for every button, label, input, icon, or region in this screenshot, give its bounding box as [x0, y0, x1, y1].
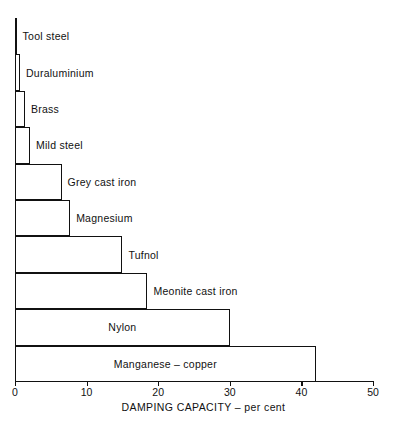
bar-rect: [15, 273, 147, 309]
y-axis-line: [15, 18, 16, 382]
bar-row: Tool steel: [0, 18, 393, 54]
x-axis-line: [15, 381, 373, 382]
bar-rect: [15, 236, 122, 272]
bar-rect: [15, 200, 70, 236]
bar-label: Nylon: [108, 322, 136, 333]
x-tick-label: 20: [152, 387, 164, 398]
bar-label: Grey cast iron: [68, 177, 137, 188]
bar-row: Brass: [0, 91, 393, 127]
x-tick-label: 50: [367, 387, 379, 398]
x-tick-label: 30: [224, 387, 236, 398]
bar-row: Meonite cast iron: [0, 273, 393, 309]
bar-row: Magnesium: [0, 200, 393, 236]
bar-rect: [15, 127, 30, 163]
bar-row: Duraluminium: [0, 54, 393, 90]
bar-label: Magnesium: [76, 213, 133, 224]
x-tick-label: 40: [296, 387, 308, 398]
x-tick-label: 0: [12, 387, 18, 398]
bar-row: Manganese – copper: [0, 346, 393, 382]
x-tick-label: 10: [81, 387, 93, 398]
bar-row: Tufnol: [0, 236, 393, 272]
bar-label: Tool steel: [23, 31, 70, 42]
bar-row: Mild steel: [0, 127, 393, 163]
bar-row: Grey cast iron: [0, 164, 393, 200]
damping-capacity-bar-chart: Tool steelDuraluminiumBrassMild steelGre…: [0, 0, 393, 427]
bar-row: Nylon: [0, 309, 393, 345]
bar-label: Mild steel: [36, 140, 83, 151]
bar-label: Brass: [31, 104, 59, 115]
bar-label: Duraluminium: [26, 67, 94, 78]
bar-label: Meonite cast iron: [153, 286, 237, 297]
bar-label: Manganese – copper: [114, 359, 217, 370]
bar-rect: [15, 91, 25, 127]
x-axis-title: DAMPING CAPACITY – per cent: [0, 401, 393, 413]
plot-area: Tool steelDuraluminiumBrassMild steelGre…: [0, 0, 393, 427]
bar-rect: [15, 164, 62, 200]
bar-label: Tufnol: [128, 249, 158, 260]
